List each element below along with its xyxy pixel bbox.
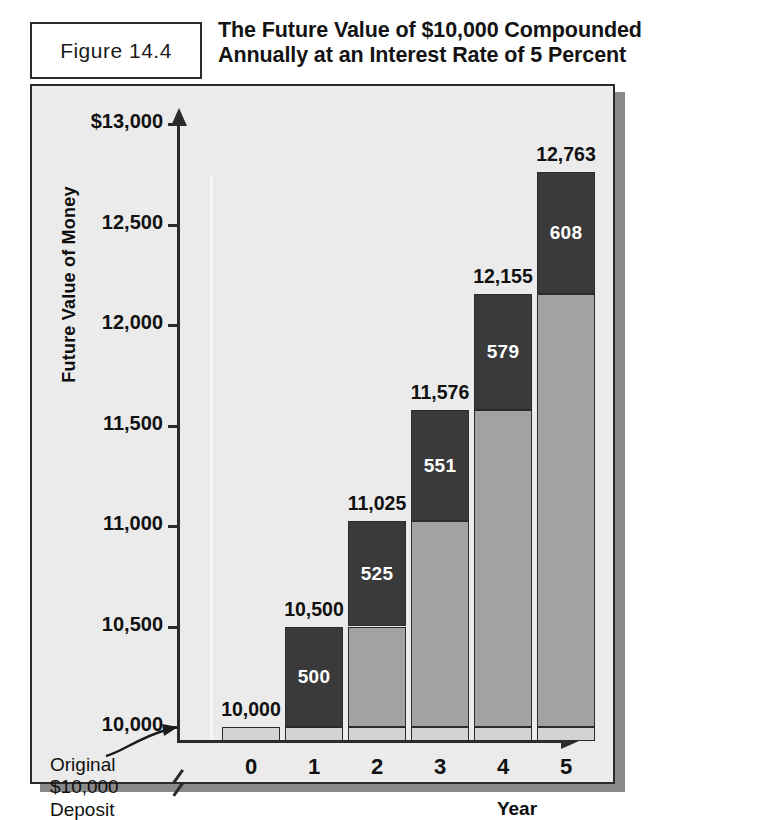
y-axis-tick [168, 123, 179, 126]
bar-segment-principal [537, 727, 595, 741]
bar-interest-label: 579 [475, 341, 531, 363]
y-tick-label: 11,500 [43, 412, 163, 435]
figure-title: The Future Value of $10,000 Compounded A… [218, 18, 763, 69]
x-axis-title: Year [462, 798, 572, 820]
y-tick-label: 12,500 [43, 211, 163, 234]
bar-segment-current-interest: 608 [537, 172, 595, 294]
bar-year-5[interactable]: 60812,763 [537, 86, 595, 741]
original-deposit-annotation: Original $10,000 Deposit [50, 754, 168, 820]
y-axis-tick [168, 626, 179, 629]
x-tick-label-0: 0 [222, 754, 280, 780]
y-axis-tick [168, 525, 179, 528]
x-tick-label-2: 2 [348, 754, 406, 780]
figure-number-label: Figure 14.4 [60, 39, 172, 63]
bar-segment-principal [348, 727, 406, 741]
plot-area: Future Value of Money 10,00010,50011,000… [32, 86, 617, 786]
bar-segment-accumulated-interest [411, 521, 469, 727]
x-tick-label-4: 4 [474, 754, 532, 780]
annotation-line-2: $10,000 [50, 776, 168, 798]
bar-interest-label: 525 [349, 563, 405, 585]
y-axis-tick [168, 324, 179, 327]
year-zero-guide-line [210, 176, 213, 741]
y-tick-label: 11,000 [43, 512, 163, 535]
annotation-line-1: Original [50, 754, 168, 776]
y-axis-line [177, 124, 180, 742]
y-axis-tick [168, 224, 179, 227]
bar-segment-accumulated-interest [474, 410, 532, 727]
y-tick-label: 10,500 [43, 613, 163, 636]
chart-panel: Future Value of Money 10,00010,50011,000… [30, 84, 615, 784]
bar-year-0[interactable]: 10,000 [222, 86, 280, 741]
bar-segment-current-interest: 551 [411, 410, 469, 521]
bar-segment-current-interest: 579 [474, 294, 532, 410]
bar-total-label: 12,763 [515, 143, 617, 166]
x-tick-label-5: 5 [537, 754, 595, 780]
bar-segment-accumulated-interest [537, 294, 595, 727]
bar-segment-principal [285, 727, 343, 741]
bar-segment-current-interest: 525 [348, 521, 406, 627]
bar-segment-principal [411, 727, 469, 741]
x-tick-label-3: 3 [411, 754, 469, 780]
figure-page: Figure 14.4 The Future Value of $10,000 … [0, 0, 781, 820]
bar-segment-current-interest: 500 [285, 627, 343, 728]
bar-interest-label: 551 [412, 455, 468, 477]
y-tick-label: $13,000 [43, 110, 163, 133]
y-tick-label: 12,000 [43, 311, 163, 334]
figure-number-box: Figure 14.4 [30, 22, 202, 79]
bar-segment-principal [474, 727, 532, 741]
bar-segment-principal [222, 727, 280, 741]
x-tick-label-1: 1 [285, 754, 343, 780]
bar-year-1[interactable]: 50010,500 [285, 86, 343, 741]
bar-interest-label: 500 [286, 666, 342, 688]
y-axis-tick [168, 425, 179, 428]
bar-segment-accumulated-interest [348, 627, 406, 728]
bar-year-2[interactable]: 52511,025 [348, 86, 406, 741]
annotation-line-3: Deposit [50, 799, 168, 820]
bar-year-3[interactable]: 55111,576 [411, 86, 469, 741]
figure-title-line-1: The Future Value of $10,000 Compounded [218, 18, 642, 42]
bar-year-4[interactable]: 57912,155 [474, 86, 532, 741]
bar-interest-label: 608 [538, 222, 594, 244]
figure-title-line-2: Annually at an Interest Rate of 5 Percen… [218, 43, 763, 68]
